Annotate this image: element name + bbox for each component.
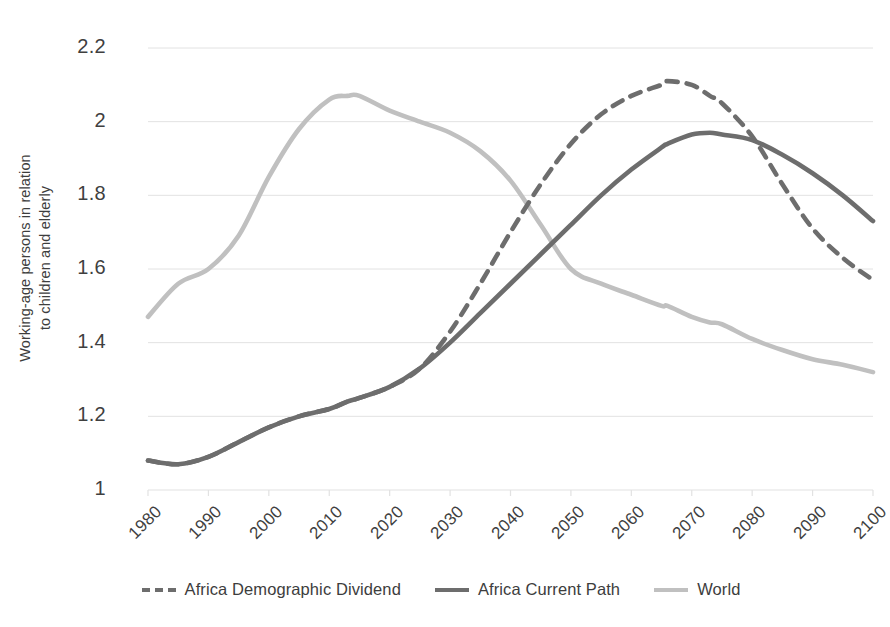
y-axis-tick-label: 2.2 [62, 35, 106, 58]
y-axis-tick-label: 1 [62, 477, 106, 500]
chart-legend: Africa Demographic DividendAfrica Curren… [0, 580, 882, 599]
series-line [148, 95, 873, 372]
legend-item[interactable]: World [654, 580, 740, 599]
gridlines [148, 48, 873, 490]
y-axis-tick-label: 1.2 [62, 403, 106, 426]
legend-item[interactable]: Africa Demographic Dividend [142, 580, 401, 599]
legend-swatch-icon [654, 588, 688, 592]
legend-swatch-icon [142, 588, 176, 592]
legend-label: Africa Demographic Dividend [185, 580, 401, 599]
legend-swatch-icon [435, 588, 469, 592]
legend-item[interactable]: Africa Current Path [435, 580, 620, 599]
legend-label: World [697, 580, 740, 599]
series-line [148, 81, 873, 464]
series-lines [148, 81, 873, 464]
y-axis-tick-label: 1.4 [62, 330, 106, 353]
y-axis-tick-label: 1.6 [62, 256, 106, 279]
y-axis-tick-label: 1.8 [62, 182, 106, 205]
x-axis-tick-marks [148, 490, 873, 496]
legend-label: Africa Current Path [478, 580, 620, 599]
y-axis-tick-label: 2 [62, 109, 106, 132]
